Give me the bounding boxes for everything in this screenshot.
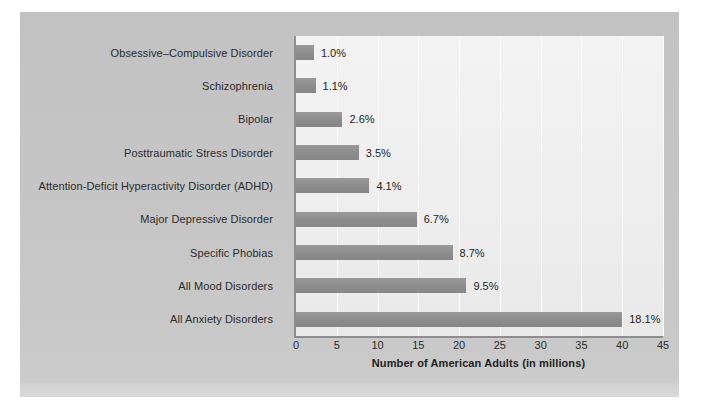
- category-label: All Mood Disorders: [20, 269, 282, 302]
- bar: [296, 278, 466, 293]
- bar-row: 6.7%: [296, 203, 663, 236]
- bar-row: 4.1%: [296, 169, 663, 202]
- chart-figure-panel: Obsessive–Compulsive DisorderSchizophren…: [20, 12, 679, 397]
- horizontal-bar-chart: Obsessive–Compulsive DisorderSchizophren…: [20, 12, 679, 397]
- x-tick-label: 40: [616, 339, 628, 351]
- bar: [296, 145, 359, 160]
- x-tick-label: 0: [293, 339, 299, 351]
- bar-data-label: 1.1%: [323, 80, 348, 92]
- plot-area: 1.0%1.1%2.6%3.5%4.1%6.7%8.7%9.5%18.1%: [294, 36, 663, 338]
- bar-data-label: 9.5%: [473, 280, 498, 292]
- bar-data-label: 6.7%: [424, 213, 449, 225]
- category-label: Schizophrenia: [20, 69, 282, 102]
- x-tick-label: 5: [334, 339, 340, 351]
- bar-row: 18.1%: [296, 303, 663, 336]
- x-axis-title: Number of American Adults (in millions): [294, 357, 663, 369]
- x-tick-label: 20: [453, 339, 465, 351]
- category-label: Specific Phobias: [20, 236, 282, 269]
- bar-data-label: 4.1%: [376, 180, 401, 192]
- x-axis-tick-labels: 051015202530354045: [294, 339, 663, 357]
- category-label: All Anxiety Disorders: [20, 303, 282, 336]
- bar-row: 9.5%: [296, 269, 663, 302]
- bar: [296, 45, 314, 60]
- bar-data-label: 18.1%: [629, 313, 660, 325]
- category-label: Posttraumatic Stress Disorder: [20, 136, 282, 169]
- gridline: [663, 36, 664, 336]
- bar-data-label: 8.7%: [460, 247, 485, 259]
- bar-row: 3.5%: [296, 136, 663, 169]
- bar: [296, 78, 316, 93]
- bar: [296, 312, 622, 327]
- x-tick-label: 10: [371, 339, 383, 351]
- x-tick-label: 45: [657, 339, 669, 351]
- bar: [296, 212, 417, 227]
- x-tick-label: 35: [575, 339, 587, 351]
- bar: [296, 112, 342, 127]
- bar-series: 1.0%1.1%2.6%3.5%4.1%6.7%8.7%9.5%18.1%: [296, 36, 663, 336]
- category-label: Obsessive–Compulsive Disorder: [20, 36, 282, 69]
- bar-row: 8.7%: [296, 236, 663, 269]
- bar-data-label: 1.0%: [321, 47, 346, 59]
- bar-data-label: 2.6%: [349, 113, 374, 125]
- category-label: Attention-Deficit Hyperactivity Disorder…: [20, 169, 282, 202]
- x-tick-label: 15: [412, 339, 424, 351]
- category-label: Bipolar: [20, 103, 282, 136]
- bar-data-label: 3.5%: [366, 147, 391, 159]
- bar: [296, 178, 369, 193]
- x-tick-label: 25: [494, 339, 506, 351]
- category-axis-labels: Obsessive–Compulsive DisorderSchizophren…: [20, 36, 282, 336]
- x-tick-label: 30: [535, 339, 547, 351]
- bar-row: 2.6%: [296, 103, 663, 136]
- bar-row: 1.0%: [296, 36, 663, 69]
- category-label: Major Depressive Disorder: [20, 203, 282, 236]
- bar-row: 1.1%: [296, 69, 663, 102]
- bar: [296, 245, 453, 260]
